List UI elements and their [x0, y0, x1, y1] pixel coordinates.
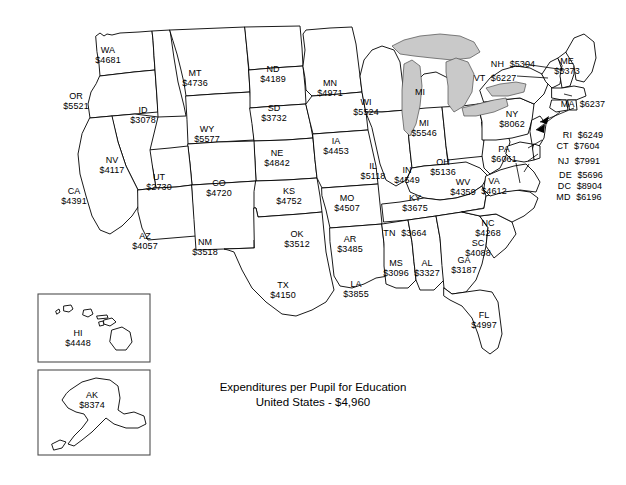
state-shape-mt: [170, 27, 250, 96]
state-shape-md: [506, 142, 534, 162]
state-shape-ne: [250, 104, 313, 141]
state-shape-or: [88, 70, 158, 118]
caption-title: Expenditures per Pupil for Education: [0, 380, 626, 395]
hawaii-island-molokai: [97, 315, 108, 319]
state-shape-mn: [303, 27, 362, 96]
caption-subtitle: United States - $4,960: [0, 395, 626, 410]
lake-superior-shape: [392, 34, 480, 60]
state-shape-ar: [322, 184, 382, 228]
lake-huron-shape: [446, 58, 474, 112]
map-caption: Expenditures per Pupil for Education Uni…: [0, 380, 626, 410]
state-shape-fl: [444, 288, 502, 354]
state-shape-wy: [186, 92, 254, 144]
us-map-graphic: [0, 0, 626, 485]
hawaii-island-lanai: [99, 321, 104, 326]
state-shape-ks: [254, 138, 317, 181]
education-expenditure-map: WA $4681 OR $5521 ID $3078 MT $4736 WY $…: [0, 0, 626, 485]
state-shape-ia: [306, 92, 368, 134]
state-shape-ct: [550, 100, 568, 112]
state-shape-ok: [254, 178, 322, 217]
state-shape-ga: [436, 212, 488, 294]
state-shape-wi: [360, 46, 406, 112]
state-shape-mo: [313, 130, 378, 188]
inset-boxes: [38, 294, 150, 455]
state-shape-ma: [552, 86, 586, 100]
state-shape-co: [188, 141, 256, 185]
state-shape-wa: [96, 31, 155, 76]
state-shape-nd: [245, 26, 303, 70]
state-shape-nm: [192, 181, 260, 250]
state-shape-az: [138, 185, 196, 240]
state-shape-sd: [249, 66, 306, 108]
state-shapes: [78, 26, 596, 354]
hawaii-inset-box: [38, 294, 150, 362]
